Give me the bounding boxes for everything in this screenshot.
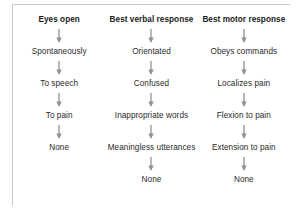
node-best-verbal-1: Orientated: [132, 47, 171, 57]
down-arrow-icon: [240, 93, 248, 108]
column-best-motor-response: Best motor response Obeys commands Local…: [198, 4, 290, 185]
down-arrow-icon: [147, 29, 155, 44]
down-arrow-icon: [55, 61, 63, 76]
node-best-motor-5: None: [234, 175, 254, 185]
column-header-best-motor-response: Best motor response: [202, 15, 285, 25]
down-arrow-icon: [147, 61, 155, 76]
node-eyes-open-1: Spontaneously: [32, 47, 87, 57]
down-arrow-icon: [55, 93, 63, 108]
node-best-verbal-5: None: [142, 175, 162, 185]
node-best-verbal-3: Inappropriate words: [115, 111, 188, 121]
node-best-motor-4: Extension to pain: [212, 143, 276, 153]
columns-container: Eyes open Spontaneously To speech To pai…: [13, 4, 290, 208]
down-arrow-icon: [147, 93, 155, 108]
node-best-motor-1: Obeys commands: [210, 47, 277, 57]
node-eyes-open-3: To pain: [46, 111, 73, 121]
down-arrow-icon: [240, 29, 248, 44]
column-header-best-verbal-response: Best verbal response: [110, 15, 194, 25]
node-eyes-open-4: None: [49, 143, 69, 153]
column-best-verbal-response: Best verbal response Orientated Confused…: [105, 4, 197, 185]
node-best-verbal-4: Meaningless utterances: [108, 143, 196, 153]
node-eyes-open-2: To speech: [40, 79, 78, 89]
down-arrow-icon: [240, 61, 248, 76]
down-arrow-icon: [240, 157, 248, 172]
down-arrow-icon: [147, 125, 155, 140]
column-header-eyes-open: Eyes open: [38, 15, 79, 25]
node-best-verbal-2: Confused: [134, 79, 169, 89]
flowchart-figure: Eyes open Spontaneously To speech To pai…: [0, 0, 302, 208]
node-best-motor-2: Localizes pain: [218, 79, 271, 89]
down-arrow-icon: [240, 125, 248, 140]
column-eyes-open: Eyes open Spontaneously To speech To pai…: [13, 4, 105, 153]
down-arrow-icon: [55, 125, 63, 140]
down-arrow-icon: [147, 157, 155, 172]
down-arrow-icon: [55, 29, 63, 44]
node-best-motor-3: Flexion to pain: [217, 111, 271, 121]
